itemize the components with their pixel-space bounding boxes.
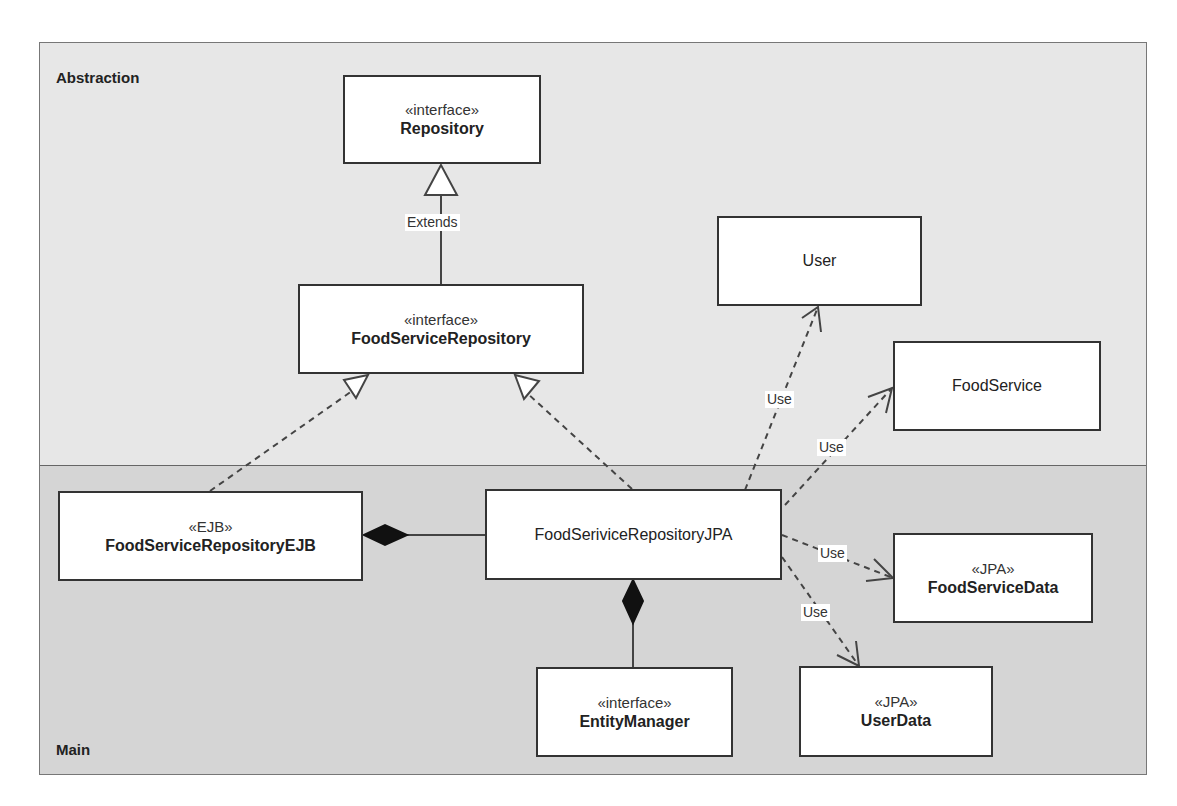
class-name: UserData — [861, 711, 931, 731]
stereotype: «JPA» — [874, 692, 917, 711]
class-name: FoodServiceRepositoryEJB — [105, 536, 316, 556]
class-food-service-repository[interactable]: «interface» FoodServiceRepository — [298, 284, 584, 374]
stereotype: «JPA» — [971, 559, 1014, 578]
class-name: FoodService — [952, 376, 1042, 396]
class-name: User — [803, 251, 837, 271]
extends-label: Extends — [405, 214, 460, 231]
class-food-service[interactable]: FoodService — [893, 341, 1101, 431]
class-entity-manager[interactable]: «interface» EntityManager — [536, 667, 733, 757]
class-user[interactable]: User — [717, 216, 922, 306]
class-name: Repository — [400, 119, 484, 139]
class-name: FoodSeriviceRepositoryJPA — [534, 525, 732, 545]
class-food-service-repository-jpa[interactable]: FoodSeriviceRepositoryJPA — [485, 489, 782, 580]
class-name: FoodServiceData — [928, 578, 1059, 598]
stereotype: «interface» — [597, 693, 671, 712]
stereotype: «EJB» — [188, 517, 232, 536]
use-label-food-service-data: Use — [818, 545, 847, 562]
use-label-user: Use — [765, 391, 794, 408]
class-repository[interactable]: «interface» Repository — [343, 75, 541, 164]
stereotype: «interface» — [404, 310, 478, 329]
class-user-data[interactable]: «JPA» UserData — [799, 666, 993, 757]
use-label-user-data: Use — [801, 604, 830, 621]
abstraction-label: Abstraction — [56, 69, 139, 86]
class-food-service-data[interactable]: «JPA» FoodServiceData — [893, 533, 1093, 623]
use-label-food-service: Use — [817, 439, 846, 456]
class-food-service-repository-ejb[interactable]: «EJB» FoodServiceRepositoryEJB — [58, 491, 363, 581]
main-label: Main — [56, 741, 90, 758]
class-name: FoodServiceRepository — [351, 329, 531, 349]
stereotype: «interface» — [405, 100, 479, 119]
class-name: EntityManager — [579, 712, 689, 732]
